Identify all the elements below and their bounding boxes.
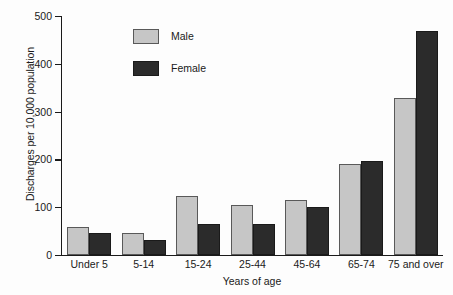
y-axis-tick-mark [55,16,61,17]
bar-female-75-and-over [416,31,438,255]
y-axis-tick-label: 500 [34,10,52,22]
y-axis-tick-label: 200 [34,153,52,165]
bar-male-5-14 [122,233,144,255]
bar-male-15-24 [176,196,198,255]
bar-female-65-74 [361,161,383,255]
x-axis-tick-label: 75 and over [379,258,453,270]
bar-female-45-64 [307,207,329,255]
legend-swatch-female-icon [133,61,159,76]
bar-female-under-5 [89,233,111,255]
y-axis-tick-label: 300 [34,106,52,118]
y-axis-tick-mark [55,112,61,113]
y-axis-tick-label: 100 [34,201,52,213]
bar-female-25-44 [253,224,275,255]
bar-chart: Discharges per 10,000 population 0100200… [0,0,453,295]
bar-female-5-14 [144,240,166,255]
y-axis-tick-label: 400 [34,58,52,70]
y-axis-title: Discharges per 10,000 population [24,24,36,224]
legend-label-female: Female [171,62,206,74]
legend-swatch-male-icon [133,29,159,44]
y-axis-tick-mark [55,207,61,208]
bar-male-65-74 [339,164,361,255]
bar-female-15-24 [198,224,220,255]
x-axis-line [61,255,443,256]
bar-male-25-44 [231,205,253,255]
y-axis-tick-mark [55,159,61,160]
legend-label-male: Male [171,30,194,42]
x-axis-title: Years of age [61,275,443,287]
y-axis-tick-mark [55,64,61,65]
bar-male-45-64 [285,200,307,255]
plot-area [62,16,443,255]
bar-male-75-and-over [394,98,416,255]
bar-male-under-5 [67,227,89,255]
